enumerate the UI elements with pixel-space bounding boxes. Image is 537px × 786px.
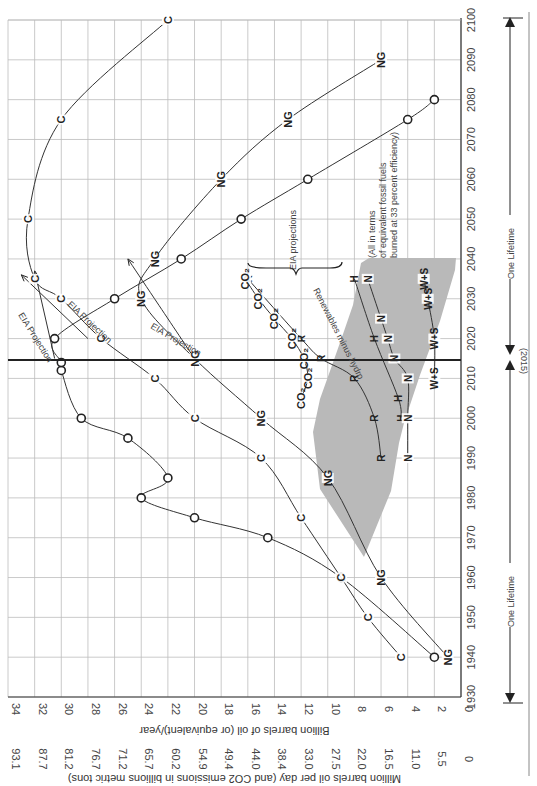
series-label-co2: CO₂ xyxy=(252,288,264,310)
year-tick-label: 2050 xyxy=(465,207,477,231)
series-label-ng: NG xyxy=(375,569,387,586)
series-label-co2: CO₂ xyxy=(295,388,307,410)
value-tick-label: 18 xyxy=(223,703,235,715)
secondary-tick-label: 16.5 xyxy=(383,748,395,769)
series-label-r: R xyxy=(376,454,387,462)
one-lifetime-label-2: One Lifetime xyxy=(506,228,516,279)
series-label-co2: CO₂ xyxy=(286,328,298,350)
oil-marker xyxy=(264,534,272,542)
year-tick-label: 2080 xyxy=(465,87,477,111)
eia-projection-label-coal: EIA Projection xyxy=(66,299,114,345)
series-label-ng: NG xyxy=(322,470,334,487)
series-label-n: N xyxy=(403,415,414,422)
secondary-tick-label: 71.2 xyxy=(117,748,129,769)
value-tick-label: 6 xyxy=(383,706,395,712)
series-label-ng: NG xyxy=(442,649,454,666)
year-tick-label: 1960 xyxy=(465,565,477,589)
value-tick-label: 12 xyxy=(303,703,315,715)
oil-marker xyxy=(177,255,185,263)
year-tick-label: 1970 xyxy=(465,525,477,549)
value-tick-label: 8 xyxy=(356,706,368,712)
oil-marker xyxy=(430,653,438,661)
series-label-r: R xyxy=(369,414,380,422)
value-tick-label: 14 xyxy=(276,703,288,715)
series-label-h: H xyxy=(369,335,380,342)
series-label-co2: CO₂ xyxy=(239,268,251,290)
secondary-tick-label: 22.0 xyxy=(356,748,368,769)
year-tick-label: 1990 xyxy=(465,446,477,470)
series-label-n: N xyxy=(389,355,400,362)
value-tick-label: 22 xyxy=(170,703,182,715)
value-tick-label: 2 xyxy=(436,706,448,712)
series-label-c: C xyxy=(22,215,34,223)
series-label-n: N xyxy=(376,315,387,322)
series-label-c: C xyxy=(295,514,307,522)
secondary-tick-label: 44.0 xyxy=(250,748,262,769)
note-line-3: burned at 33 percent efficiency) xyxy=(389,132,399,258)
value-tick-label: 24 xyxy=(143,703,155,715)
series-label-n: N xyxy=(403,375,414,382)
oil-marker xyxy=(237,215,245,223)
secondary-tick-label: 11.0 xyxy=(410,749,422,770)
oil-marker xyxy=(57,366,65,374)
year-tick-label: 1950 xyxy=(465,605,477,629)
value-tick-label: 16 xyxy=(250,703,262,715)
value-tick-label: 30 xyxy=(63,703,75,715)
series-label-r: R xyxy=(316,354,327,362)
series-label-co2: CO₂ xyxy=(268,308,280,330)
secondary-tick-label: 49.4 xyxy=(223,748,235,769)
value-tick-label: 32 xyxy=(37,703,49,715)
oil-marker xyxy=(51,335,59,343)
oil-marker xyxy=(137,494,145,502)
series-label-c: C xyxy=(55,116,67,124)
series-label-co2: CO₂ xyxy=(302,368,314,390)
oil-marker xyxy=(164,474,172,482)
series-label-n: N xyxy=(383,335,394,342)
secondary-tick-label: 81.2 xyxy=(63,748,75,769)
year-tick-label: 1980 xyxy=(465,486,477,510)
lifetime-markers: One Lifetime One Lifetime (2015) xyxy=(502,17,529,703)
year-tick-label: 2020 xyxy=(465,326,477,350)
oil-marker xyxy=(404,116,412,124)
eia-projection-label-oil: EIA Projection xyxy=(16,311,54,364)
series-label-h: H xyxy=(393,395,404,402)
secondary-tick-label: 0 xyxy=(463,756,475,762)
series-label-w-s: W+S xyxy=(429,327,440,349)
series-label-h: H xyxy=(349,275,360,282)
energy-chart: 0025.5411.0616.5822.01027.51233.01438.41… xyxy=(0,0,537,786)
oil-marker xyxy=(77,414,85,422)
year-tick-label: 2010 xyxy=(465,366,477,390)
series-label-c: C xyxy=(255,454,267,462)
oil-marker xyxy=(430,96,438,104)
series-label-c: C xyxy=(29,275,41,283)
series-label-c: C xyxy=(189,414,201,422)
note-line-1: (All in terms xyxy=(367,210,377,258)
secondary-tick-label: 27.5 xyxy=(330,748,342,769)
y2-axis-title: Million barrels oil per day (and CO2 emi… xyxy=(68,773,401,785)
series-label-ng: NG xyxy=(135,291,147,308)
secondary-tick-label: 87.7 xyxy=(37,748,49,769)
secondary-tick-label: 65.7 xyxy=(143,748,155,769)
oil-marker xyxy=(304,175,312,183)
y1-axis-title: Billion barrels of oil (or equivalent)/y… xyxy=(139,725,329,737)
year-tick-label: 2030 xyxy=(465,287,477,311)
value-tick-label: 26 xyxy=(117,703,129,715)
series-label-c: C xyxy=(335,574,347,582)
series-label-w-s: W+S xyxy=(419,268,430,290)
series-label-co2: CO₂ xyxy=(298,348,310,370)
series-label-c: C xyxy=(362,613,374,621)
secondary-tick-label: 60.2 xyxy=(170,748,182,769)
year-tick-label: 2070 xyxy=(465,127,477,151)
year-tick-label: 2060 xyxy=(465,167,477,191)
note-line-2: of equivalent fossil fuels xyxy=(378,162,388,258)
series-label-c: C xyxy=(162,16,174,24)
secondary-tick-label: 76.7 xyxy=(90,748,102,769)
secondary-tick-label: 38.4 xyxy=(276,748,288,769)
secondary-tick-label: 33.0 xyxy=(303,748,315,769)
secondary-tick-label: 54.9 xyxy=(197,748,209,769)
series-label-c: C xyxy=(395,653,407,661)
year-tick-label: 2000 xyxy=(465,406,477,430)
value-tick-label: 10 xyxy=(330,703,342,715)
series-label-n: N xyxy=(403,454,414,461)
value-tick-label: 4 xyxy=(410,706,422,712)
